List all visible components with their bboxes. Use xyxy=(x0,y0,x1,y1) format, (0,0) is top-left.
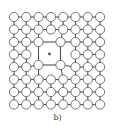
atom-circle xyxy=(71,50,80,59)
atom-circle xyxy=(22,12,31,21)
atom-circle xyxy=(71,100,80,109)
atom-circle xyxy=(34,100,43,109)
atom-circle xyxy=(9,25,18,34)
atom-circle xyxy=(56,37,65,46)
atom-circle xyxy=(9,50,18,59)
atom-circle xyxy=(83,100,92,109)
atom-circle xyxy=(83,12,92,21)
atom-circle xyxy=(22,87,31,96)
atom-circle xyxy=(59,12,68,21)
atom-circle xyxy=(59,75,68,84)
atom-circle xyxy=(96,25,105,34)
atom-circle xyxy=(46,12,55,21)
atom-circle xyxy=(34,75,43,84)
atom-circle xyxy=(59,100,68,109)
figure-caption: b) xyxy=(0,113,115,122)
atom-circle xyxy=(83,25,92,34)
atom-circle xyxy=(71,62,80,71)
atom-circle xyxy=(46,87,55,96)
atom-circle xyxy=(9,37,18,46)
atom-circle xyxy=(71,87,80,96)
atom-circle xyxy=(83,50,92,59)
atom-circle xyxy=(96,87,105,96)
atom-circle xyxy=(46,25,55,34)
atom-circle xyxy=(59,25,68,34)
atom-circle xyxy=(56,60,65,69)
atom-circle xyxy=(22,25,31,34)
atom-circle xyxy=(83,62,92,71)
atom-circle xyxy=(96,100,105,109)
atom-circle xyxy=(83,87,92,96)
atom-circle xyxy=(96,75,105,84)
atom-circle xyxy=(34,25,43,34)
atom-circle xyxy=(34,87,43,96)
atom-circle xyxy=(96,12,105,21)
atom-circle xyxy=(71,75,80,84)
atom-circle xyxy=(71,12,80,21)
atom-circle xyxy=(34,60,43,69)
atoms xyxy=(9,12,104,109)
atom-circle xyxy=(96,37,105,46)
atom-circle xyxy=(46,75,55,84)
atom-circle xyxy=(9,100,18,109)
atom-circle xyxy=(96,62,105,71)
atom-circle xyxy=(34,12,43,21)
atom-circle xyxy=(22,75,31,84)
atom-circle xyxy=(22,50,31,59)
atom-circle xyxy=(96,50,105,59)
lattice-diagram xyxy=(0,0,115,112)
atom-circle xyxy=(22,100,31,109)
atom-circle xyxy=(34,37,43,46)
atom-circle xyxy=(46,100,55,109)
atom-circle xyxy=(83,75,92,84)
atom-circle xyxy=(9,12,18,21)
atom-circle xyxy=(9,75,18,84)
atom-circle xyxy=(83,37,92,46)
atom-circle xyxy=(71,37,80,46)
defect-dot-icon xyxy=(48,53,51,56)
atom-circle xyxy=(9,62,18,71)
atom-circle xyxy=(22,37,31,46)
atom-circle xyxy=(71,25,80,34)
atom-circle xyxy=(59,87,68,96)
atom-circle xyxy=(22,62,31,71)
atom-circle xyxy=(9,87,18,96)
